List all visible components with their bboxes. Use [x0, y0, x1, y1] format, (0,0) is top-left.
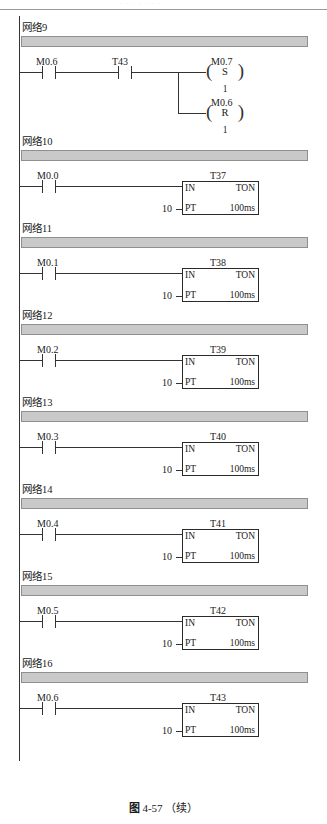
timer-name: T43	[210, 692, 226, 703]
caption-suffix: （续）	[165, 802, 198, 814]
timer-in-label: IN	[185, 270, 195, 281]
timer-preset-stub	[176, 644, 182, 645]
power-rail	[19, 16, 20, 761]
timer-preset-value: 10	[162, 203, 172, 214]
coil-count: 1	[206, 125, 244, 135]
timer-pt-label: PT	[185, 551, 196, 562]
rung-segment-left	[19, 360, 42, 361]
contact-no[interactable]	[42, 702, 56, 715]
contact-bar-left	[42, 354, 43, 367]
timer-timebase-label: 100ms	[230, 203, 255, 214]
branch-vertical	[178, 72, 179, 113]
timer-timebase-label: 100ms	[230, 638, 255, 649]
rung-segment-right	[55, 534, 182, 535]
caption-figure-word: 图	[129, 802, 140, 814]
timer-mode-label: TON	[236, 183, 255, 194]
timer-name: T38	[210, 257, 226, 268]
contact-no[interactable]	[42, 528, 56, 541]
rung-segment-right	[55, 360, 182, 361]
timer-mode-label: TON	[236, 444, 255, 455]
timer-preset-stub	[176, 557, 182, 558]
network-label: 网络10	[22, 136, 53, 148]
contact-no[interactable]	[42, 354, 56, 367]
contact-no[interactable]	[118, 66, 132, 79]
contact-no[interactable]	[42, 615, 56, 628]
ladder-diagram-page: · · · · · · · 网络9M0.6T43M0.7()S1M0.6()R1…	[0, 0, 327, 824]
rung-segment-right	[55, 273, 182, 274]
rung-segment-right	[55, 621, 182, 622]
rung-segment-c	[131, 72, 178, 73]
contact-bar-left	[42, 528, 43, 541]
timer-timebase-label: 100ms	[230, 290, 255, 301]
branch-segment-lower	[178, 113, 206, 114]
network-bar	[21, 150, 308, 161]
network-bar	[21, 498, 308, 509]
contact-bar-left	[42, 66, 43, 79]
branch-segment-upper	[178, 72, 206, 73]
rung-segment-right	[55, 186, 182, 187]
timer-mode-label: TON	[236, 618, 255, 629]
timer-mode-label: TON	[236, 705, 255, 716]
timer-pt-label: PT	[185, 464, 196, 475]
network-bar	[21, 237, 308, 248]
rung-segment-left	[19, 186, 42, 187]
timer-preset-value: 10	[162, 377, 172, 388]
timer-pt-label: PT	[185, 290, 196, 301]
contact-no[interactable]	[42, 66, 56, 79]
network-bar	[21, 36, 308, 47]
timer-preset-value: 10	[162, 638, 172, 649]
timer-block[interactable]: INTONPT100ms	[182, 529, 259, 563]
timer-mode-label: TON	[236, 357, 255, 368]
rung-segment-left	[19, 273, 42, 274]
rung-segment-a	[19, 72, 42, 73]
network-label: 网络13	[22, 397, 53, 409]
timer-pt-label: PT	[185, 725, 196, 736]
timer-in-label: IN	[185, 357, 195, 368]
coil-s[interactable]: ()S	[206, 64, 244, 81]
timer-timebase-label: 100ms	[230, 551, 255, 562]
coil-r[interactable]: ()R	[206, 105, 244, 122]
network-label: 网络14	[22, 484, 53, 496]
coil-operation: R	[206, 107, 244, 119]
timer-in-label: IN	[185, 531, 195, 542]
timer-preset-value: 10	[162, 464, 172, 475]
timer-block[interactable]: INTONPT100ms	[182, 616, 259, 650]
contact-bar-left	[42, 267, 43, 280]
timer-mode-label: TON	[236, 270, 255, 281]
network-label: 网络9	[22, 22, 47, 34]
timer-block[interactable]: INTONPT100ms	[182, 355, 259, 389]
network-bar	[21, 411, 308, 422]
coil-operation: S	[206, 66, 244, 78]
figure-caption: 图 4-57 （续）	[0, 799, 327, 815]
timer-pt-label: PT	[185, 377, 196, 388]
rung-segment-b	[55, 72, 118, 73]
timer-timebase-label: 100ms	[230, 725, 255, 736]
coil-count: 1	[206, 84, 244, 94]
contact-bar-left	[118, 66, 119, 79]
rung-segment-right	[55, 447, 182, 448]
timer-preset-value: 10	[162, 725, 172, 736]
timer-block[interactable]: INTONPT100ms	[182, 442, 259, 476]
timer-preset-stub	[176, 296, 182, 297]
network-bar	[21, 585, 308, 596]
timer-name: T39	[210, 344, 226, 355]
contact-no[interactable]	[42, 267, 56, 280]
network-label: 网络12	[22, 310, 53, 322]
timer-timebase-label: 100ms	[230, 377, 255, 388]
rung-segment-left	[19, 708, 42, 709]
network-label: 网络16	[22, 658, 53, 670]
timer-in-label: IN	[185, 444, 195, 455]
timer-block[interactable]: INTONPT100ms	[182, 703, 259, 737]
timer-block[interactable]: INTONPT100ms	[182, 268, 259, 302]
network-bar	[21, 672, 308, 683]
timer-preset-stub	[176, 470, 182, 471]
contact-no[interactable]	[42, 180, 56, 193]
contact-no[interactable]	[42, 441, 56, 454]
timer-timebase-label: 100ms	[230, 464, 255, 475]
timer-block[interactable]: INTONPT100ms	[182, 181, 259, 215]
timer-preset-stub	[176, 209, 182, 210]
timer-in-label: IN	[185, 183, 195, 194]
network-label: 网络15	[22, 571, 53, 583]
timer-name: T40	[210, 431, 226, 442]
rung-segment-left	[19, 621, 42, 622]
